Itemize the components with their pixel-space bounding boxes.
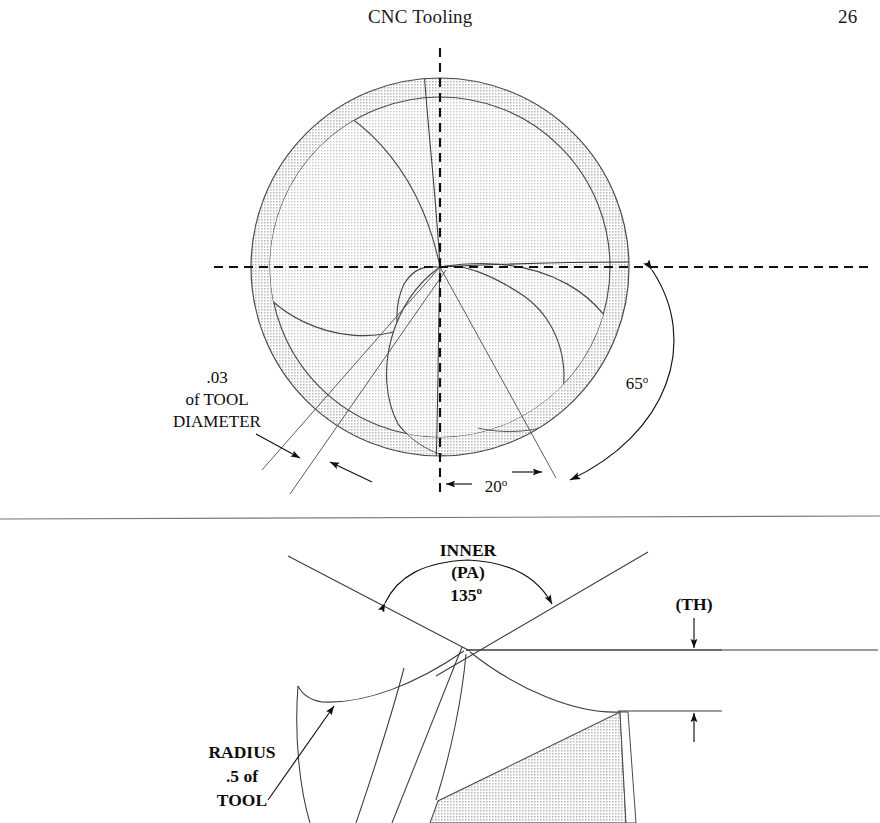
flank-edge-left	[297, 686, 310, 823]
thickness-label: (TH)	[676, 594, 713, 614]
inner-pa-value: 135	[450, 585, 477, 605]
tool-diameter-label-line1: .03	[206, 368, 227, 387]
inner-pa-degree-symbol: o	[476, 584, 482, 596]
radius-label-line3: TOOL	[217, 790, 267, 810]
top-figure-end-view: .03 of TOOL DIAMETER 20o 65o	[173, 48, 872, 496]
bottom-figure-side-view: INNER (PA) 135o (TH)	[208, 540, 878, 823]
flank-face-shaded	[430, 712, 626, 823]
radius-leader-line	[268, 706, 334, 800]
radius-label-line2: .5 of	[226, 766, 258, 786]
angle-20-label: 20o	[485, 476, 508, 496]
angle-65-label: 65o	[626, 373, 649, 393]
tool-diameter-label-line3: DIAMETER	[173, 412, 261, 431]
section-divider	[0, 516, 880, 519]
dim-leader-lower	[330, 462, 372, 482]
flute-profile-outer-right	[470, 652, 620, 712]
page-canvas: CNC Tooling 26	[0, 0, 880, 823]
inner-pa-label-line2: (PA)	[451, 562, 485, 582]
angle-65-value: 65	[626, 374, 643, 393]
angle-65-degree-symbol: o	[643, 373, 649, 385]
inner-pa-label-line1: INNER	[440, 540, 497, 560]
angle-20-degree-symbol: o	[502, 476, 508, 488]
inner-pa-label-line3: 135o	[450, 584, 482, 605]
dim-leader-upper	[256, 434, 300, 458]
tool-diameter-dimension	[256, 434, 372, 482]
radius-label-line1: RADIUS	[208, 742, 275, 762]
rake-line-left	[288, 556, 470, 651]
tool-diameter-label-line2: of TOOL	[185, 390, 248, 409]
flute-profile-outer-left	[298, 651, 464, 702]
angle-20-value: 20	[485, 477, 502, 496]
flute-curve-1	[356, 668, 404, 823]
technical-drawing-svg: .03 of TOOL DIAMETER 20o 65o	[0, 0, 880, 823]
